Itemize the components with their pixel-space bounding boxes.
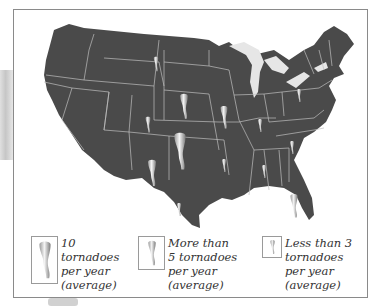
legend-item-medium: More than 5 tornadoes per year (average): [138, 236, 238, 292]
small-tornado-icon: [262, 236, 282, 258]
us-tornado-map: [14, 10, 369, 232]
map-legend: 10 tornadoes per year (average) More tha…: [14, 232, 369, 292]
medium-tornado-icon: [138, 236, 165, 270]
legend-label-large: 10 tornadoes per year (average): [61, 236, 125, 292]
background-relief-texture-bottom: [48, 298, 78, 306]
legend-label-medium: More than 5 tornadoes per year (average): [168, 236, 238, 292]
legend-item-small: Less than 3 tornadoes per year (average): [262, 236, 357, 292]
map-figure-frame: 10 tornadoes per year (average) More tha…: [13, 9, 368, 298]
large-tornado-icon: [31, 236, 58, 284]
legend-label-small: Less than 3 tornadoes per year (average): [285, 236, 357, 292]
us-landmass: [44, 24, 354, 228]
background-relief-texture: [0, 70, 14, 160]
legend-item-large: 10 tornadoes per year (average): [31, 236, 125, 292]
